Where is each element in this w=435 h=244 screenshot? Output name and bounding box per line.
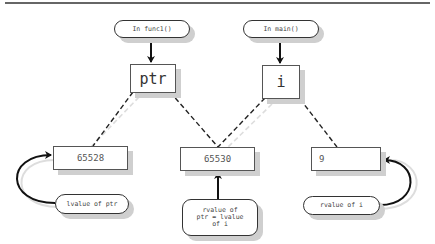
diagram-canvas: In func1() In main() ptr i 65528 65530 9… (0, 0, 435, 244)
memory-cell-65530-value: 65530 (204, 154, 231, 164)
annotation-rvalue-of-i: rvalue of i (303, 196, 380, 215)
scope-func1-text: In func1() (132, 26, 171, 33)
annotation-rvalue-line-3: of i (212, 221, 228, 228)
dashed-connectors (93, 92, 337, 147)
memory-cell-9-value: 9 (319, 154, 324, 164)
variable-ptr-name: ptr (139, 70, 166, 88)
annotation-lvalue-of-ptr: lvalue of ptr (55, 194, 129, 214)
annotation-lvalue-of-ptr-text: lvalue of ptr (67, 201, 118, 208)
annotation-rvalue-of-ptr: rvalue of ptr = lvalue of i (182, 199, 258, 236)
rvalue-i-arrow (380, 160, 411, 205)
variable-i-name: i (276, 73, 285, 91)
memory-cell-9: 9 (311, 147, 381, 171)
annotation-rvalue-of-i-text: rvalue of i (320, 202, 363, 209)
memory-cell-65528: 65528 (53, 146, 128, 170)
scope-main-text: In main() (263, 26, 298, 33)
variable-i-box: i (262, 65, 300, 99)
scope-func1-label: In func1() (114, 20, 190, 38)
variable-ptr-box: ptr (130, 64, 176, 93)
memory-cell-65528-value: 65528 (77, 153, 104, 163)
memory-cell-65530: 65530 (180, 147, 255, 171)
scope-main-label: In main() (243, 20, 319, 38)
